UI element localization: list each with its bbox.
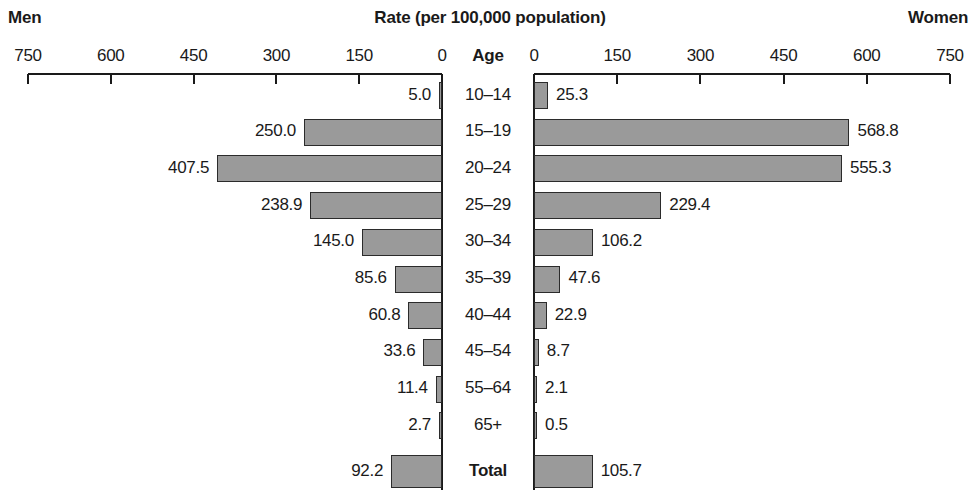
tick-label-right-150: 150 xyxy=(603,46,630,66)
bar-men xyxy=(217,155,442,182)
bar-men xyxy=(391,455,442,488)
value-label-men: 250.0 xyxy=(255,121,296,141)
value-label-men: 145.0 xyxy=(313,231,354,251)
value-label-men: 238.9 xyxy=(261,195,302,215)
age-group-label: 40–44 xyxy=(465,305,511,325)
value-label-men: 11.4 xyxy=(397,378,428,398)
tick-label-left-0: 0 xyxy=(437,46,446,66)
value-label-women: 8.7 xyxy=(547,341,570,361)
bar-men xyxy=(395,266,442,293)
bar-men xyxy=(423,339,442,366)
chart-title: Rate (per 100,000 population) xyxy=(0,8,980,28)
tick-label-left-600: 600 xyxy=(97,46,124,66)
age-group-label: 30–34 xyxy=(465,231,511,251)
bar-women xyxy=(534,155,842,182)
bar-women xyxy=(534,412,537,439)
age-axis-label: Age xyxy=(472,46,504,66)
value-label-men: 5.0 xyxy=(408,85,431,105)
value-label-women: 22.9 xyxy=(555,305,587,325)
tick-label-left-150: 150 xyxy=(345,46,372,66)
bar-men xyxy=(304,119,442,146)
tick-label-left-300: 300 xyxy=(263,46,290,66)
tick-label-right-450: 450 xyxy=(770,46,797,66)
value-label-men: 92.2 xyxy=(351,461,383,481)
value-label-women: 105.7 xyxy=(601,461,642,481)
value-label-women: 0.5 xyxy=(545,415,568,435)
value-label-men: 407.5 xyxy=(168,158,209,178)
bar-women xyxy=(534,302,547,329)
tick-label-left-750: 750 xyxy=(14,46,41,66)
tick-label-right-600: 600 xyxy=(853,46,880,66)
tick-label-right-750: 750 xyxy=(936,46,963,66)
age-group-label: Total xyxy=(469,461,507,481)
bar-men xyxy=(436,376,442,403)
tick-label-right-300: 300 xyxy=(687,46,714,66)
value-label-women: 47.6 xyxy=(568,268,600,288)
age-group-label: 55–64 xyxy=(465,378,511,398)
bar-men xyxy=(439,412,442,439)
bar-women xyxy=(534,82,548,109)
bar-women xyxy=(534,266,560,293)
age-group-label: 25–29 xyxy=(465,195,511,215)
value-label-women: 106.2 xyxy=(601,231,642,251)
tick-label-left-450: 450 xyxy=(180,46,207,66)
bar-men xyxy=(310,192,442,219)
value-label-women: 568.8 xyxy=(857,121,898,141)
age-group-label: 15–19 xyxy=(465,121,511,141)
bar-women xyxy=(534,192,661,219)
bar-men xyxy=(439,82,442,109)
value-label-men: 33.6 xyxy=(384,341,416,361)
value-label-men: 2.7 xyxy=(408,415,431,435)
value-label-women: 229.4 xyxy=(669,195,710,215)
tick-label-right-0: 0 xyxy=(529,46,538,66)
value-label-men: 85.6 xyxy=(355,268,387,288)
bar-women xyxy=(534,376,537,403)
population-pyramid-chart: Men Women Rate (per 100,000 population) … xyxy=(0,0,980,490)
age-group-label: 10–14 xyxy=(465,85,511,105)
age-group-label: 35–39 xyxy=(465,268,511,288)
value-label-women: 2.1 xyxy=(545,378,568,398)
bar-men xyxy=(362,229,442,256)
value-label-women: 555.3 xyxy=(850,158,891,178)
bar-women xyxy=(534,229,593,256)
value-label-women: 25.3 xyxy=(556,85,588,105)
value-label-men: 60.8 xyxy=(369,305,401,325)
bar-women xyxy=(534,455,593,488)
age-group-label: 20–24 xyxy=(465,158,511,178)
bar-men xyxy=(408,302,442,329)
bar-women xyxy=(534,339,539,366)
bar-women xyxy=(534,119,849,146)
age-group-label: 65+ xyxy=(474,415,502,435)
age-group-label: 45–54 xyxy=(465,341,511,361)
